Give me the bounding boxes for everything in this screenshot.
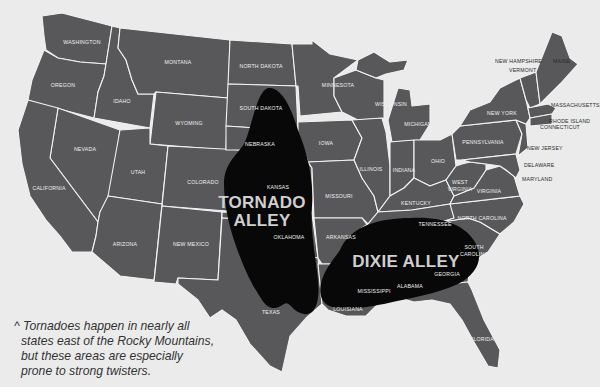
tornado-alley-label-line2: ALLEY xyxy=(218,212,306,230)
label-oregon: OREGON xyxy=(51,82,75,88)
label-california: CALIFORNIA xyxy=(32,185,65,191)
label-georgia: GEORGIA xyxy=(434,271,460,277)
label-vermont: VERMONT xyxy=(509,67,536,73)
label-iowa: IOWA xyxy=(319,140,333,146)
label-wisconsin: WISCONSIN xyxy=(375,101,407,107)
label-florida: FLORIDA xyxy=(470,336,494,342)
label-michigan: MICHIGAN xyxy=(404,121,432,127)
map-caption: ^ Tornadoes happen in nearly all states … xyxy=(14,319,234,379)
label-illinois: ILLINOIS xyxy=(360,166,383,172)
label-maine: MAINE xyxy=(553,58,570,64)
label-west-virginia: WEST VIRGINIA xyxy=(445,179,475,193)
caption-line-4: prone to strong twisters. xyxy=(14,364,234,379)
state-arizona xyxy=(92,196,162,280)
dixie-alley-label-text: DIXIE ALLEY xyxy=(352,252,460,271)
label-delaware: DELAWARE xyxy=(524,162,554,168)
label-maryland: MARYLAND xyxy=(522,176,552,182)
label-kansas: KANSAS xyxy=(267,184,289,190)
label-north-carolina: NORTH CAROLINA xyxy=(457,215,506,221)
dixie-alley-label: DIXIE ALLEY xyxy=(352,253,460,271)
label-north-dakota: NORTH DAKOTA xyxy=(239,63,282,69)
label-mississippi: MISSISSIPPI xyxy=(357,288,390,294)
label-virginia: VIRGINIA xyxy=(477,188,501,194)
label-massachusetts: MASSACHUSETTS xyxy=(551,102,600,108)
label-indiana: INDIANA xyxy=(393,167,415,173)
label-arizona: ARIZONA xyxy=(113,241,137,247)
label-south-carolina: SOUTH CAROLINA xyxy=(457,244,491,258)
label-new-jersey: NEW JERSEY xyxy=(527,145,563,151)
state-new-york xyxy=(460,78,530,126)
label-louisiana: LOUISIANA xyxy=(333,306,362,312)
label-ohio: OHIO xyxy=(431,158,445,164)
label-connecticut: CONNECTICUT xyxy=(540,124,580,130)
label-texas: TEXAS xyxy=(262,309,280,315)
label-south-dakota: SOUTH DAKOTA xyxy=(240,105,283,111)
label-pennsylvania: PENNSYLVANIA xyxy=(462,139,503,145)
label-missouri: MISSOURI xyxy=(325,193,352,199)
label-minnesota: MINNESOTA xyxy=(322,82,354,88)
state-maine xyxy=(536,32,578,104)
label-oklahoma: OKLAHOMA xyxy=(273,234,304,240)
caption-line-1: ^ Tornadoes happen in nearly all xyxy=(14,319,234,334)
label-nebraska: NEBRASKA xyxy=(245,141,275,147)
label-arkansas: ARKANSAS xyxy=(326,234,356,240)
caption-line-2: states east of the Rocky Mountains, xyxy=(14,334,234,349)
caption-line-3: but these areas are especially xyxy=(14,349,234,364)
label-new-hampshire: NEW HAMPSHIRE xyxy=(495,58,542,64)
label-utah: UTAH xyxy=(131,169,146,175)
label-wyoming: WYOMING xyxy=(175,120,202,126)
label-alabama: ALABAMA xyxy=(397,283,423,289)
label-new-mexico: NEW MEXICO xyxy=(173,241,209,247)
label-idaho: IDAHO xyxy=(113,98,130,104)
label-kentucky: KENTUCKY xyxy=(401,200,431,206)
state-michigan xyxy=(388,88,430,142)
label-colorado: COLORADO xyxy=(187,179,218,185)
tornado-alley-label: TORNADO ALLEY xyxy=(218,194,306,230)
label-new-york: NEW YORK xyxy=(487,110,517,116)
label-tennessee: TENNESSEE xyxy=(418,221,451,227)
label-montana: MONTANA xyxy=(165,59,192,65)
label-nevada: NEVADA xyxy=(74,146,96,152)
label-rhode-island: RHODE ISLAND xyxy=(549,118,590,124)
label-washington: WASHINGTON xyxy=(63,39,100,45)
tornado-alley-label-line1: TORNADO xyxy=(218,194,306,212)
